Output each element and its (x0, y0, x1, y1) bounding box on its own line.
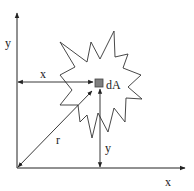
y-distance-label: y (105, 142, 111, 154)
dA-label: dA (106, 79, 121, 91)
r-distance-label: r (56, 134, 60, 146)
area-moment-diagram: y x x y r dA (0, 0, 194, 191)
area-element-dA (95, 79, 103, 87)
y-axis-label: y (5, 37, 11, 49)
r-distance-arrow (18, 91, 92, 167)
x-axis-label: x (165, 176, 171, 188)
x-distance-label: x (40, 68, 46, 80)
diagram-graphic (0, 0, 194, 191)
